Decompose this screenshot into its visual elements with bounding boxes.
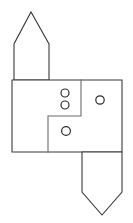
marker-circle-3 (96, 96, 104, 104)
marker-circle-1 (61, 89, 69, 97)
drawing-svg (0, 0, 133, 223)
upward-pentagon-shape (14, 12, 49, 80)
technical-drawing-canvas (0, 0, 133, 223)
marker-circle-2 (61, 101, 69, 109)
downward-pentagon-shape (82, 152, 122, 215)
marker-circle-4 (62, 127, 71, 136)
